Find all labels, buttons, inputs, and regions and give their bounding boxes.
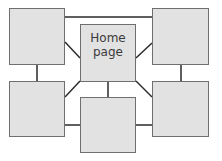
node-bottom-center <box>80 97 136 153</box>
home-page-label: Home page <box>81 31 135 59</box>
edge-home-top-left <box>65 42 80 58</box>
node-top-left <box>9 8 65 65</box>
edge-home-bottom-left <box>65 81 80 97</box>
edge-home-bottom-right <box>136 81 152 97</box>
node-bottom-right <box>152 81 209 137</box>
edge-home-top-right <box>136 43 152 58</box>
node-top-right <box>152 8 209 65</box>
node-home-page: Home page <box>80 24 136 82</box>
node-bottom-left <box>9 81 65 137</box>
